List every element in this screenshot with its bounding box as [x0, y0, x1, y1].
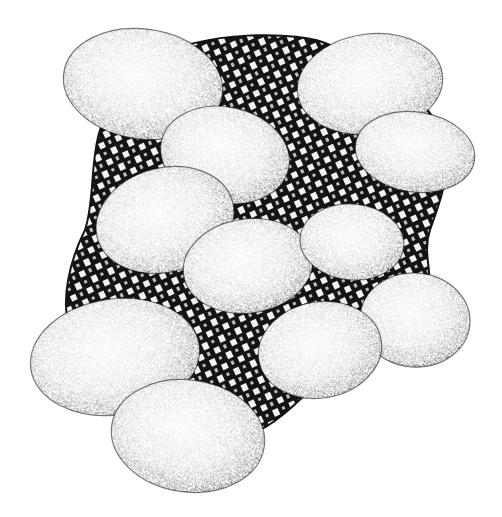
eggs-illustration-canvas [0, 0, 502, 517]
illustration: Stippled eggs on a checkered cloth [0, 0, 502, 517]
